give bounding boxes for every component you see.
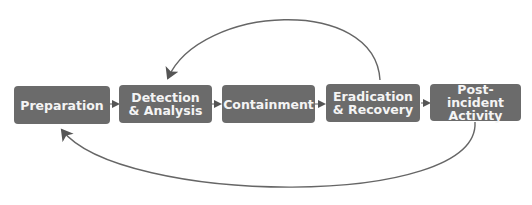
step-preparation: Preparation [14,86,110,124]
step-detection-analysis: Detection & Analysis [119,85,212,123]
feedback-arrow-bottom [62,122,475,187]
step-eradication-recovery: Eradication & Recovery [326,84,420,122]
step-label: Containment [223,98,314,111]
step-post-incident-activity: Post-incident Activity [430,84,521,121]
step-label: Post-incident Activity [433,83,519,122]
step-containment: Containment [222,85,315,123]
step-label: Eradication & Recovery [329,90,417,116]
feedback-arrow-top [168,20,380,80]
step-label: Preparation [20,99,104,112]
step-label: Detection & Analysis [126,91,206,117]
